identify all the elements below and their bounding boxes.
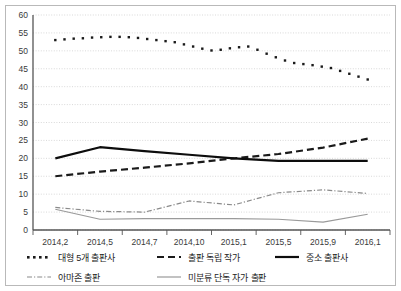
series-line-2 — [55, 147, 367, 161]
y-axis-tick-label: 60 — [19, 10, 29, 20]
dashed-line-icon — [156, 252, 182, 262]
y-axis-tick-label: 10 — [19, 189, 29, 199]
legend-item-indie-authors[interactable]: 출판 독립 작가 — [156, 247, 274, 267]
y-axis-tick-label: 40 — [19, 82, 29, 92]
data-dot — [284, 59, 286, 61]
series-line-3 — [55, 190, 367, 212]
data-dot — [357, 75, 359, 77]
data-dot — [54, 39, 56, 41]
x-axis-tick-label: 2016,1 — [355, 237, 381, 247]
data-dot — [293, 62, 295, 64]
legend-item-uncategorized-self-publishing[interactable]: 미분류 단독 자가 출판 — [156, 267, 346, 287]
data-dot — [238, 46, 240, 48]
y-axis-tick-label: 15 — [19, 171, 29, 181]
data-dot — [219, 49, 221, 51]
y-axis-tick-label: 35 — [19, 100, 29, 110]
series-0-dots — [54, 36, 369, 81]
data-dot — [164, 40, 166, 42]
data-dot — [100, 36, 102, 38]
data-dot — [247, 45, 249, 47]
legend-item-large-publishers[interactable]: 대형 5개 출판사 — [26, 247, 156, 267]
y-axis-tick-label: 50 — [19, 46, 29, 56]
data-dot — [72, 37, 74, 39]
data-dot — [63, 38, 65, 40]
legend-row-2: 아마존 출판 미분류 단독 자가 출판 — [12, 267, 389, 287]
data-dot — [321, 65, 323, 67]
data-dot — [174, 41, 176, 43]
data-dot — [302, 63, 304, 65]
legend-item-small-publishers[interactable]: 중소 출판사 — [274, 247, 384, 267]
thin-solid-line-icon — [156, 272, 182, 282]
y-axis-tick-label: 25 — [19, 135, 29, 145]
data-dot — [155, 39, 157, 41]
chart-legend: 대형 5개 출판사 출판 독립 작가 중소 출판사 아마존 출판 미분류 단독 … — [12, 247, 389, 287]
data-dot — [82, 37, 84, 39]
legend-label: 아마존 출판 — [58, 271, 100, 284]
x-axis-tick-label: 2015,9 — [310, 237, 336, 247]
y-axis-tick-label: 20 — [19, 153, 29, 163]
chart-container: 0510152025303540455055602014,22014,52014… — [0, 0, 401, 291]
data-dot — [128, 36, 130, 38]
y-axis-tick-label: 5 — [23, 207, 28, 217]
y-axis-tick-label: 30 — [19, 118, 29, 128]
dash-dot-line-icon — [26, 272, 52, 282]
x-axis-tick-label: 2015,5 — [265, 237, 291, 247]
data-dot — [183, 43, 185, 45]
data-dot — [339, 70, 341, 72]
data-dot — [118, 36, 120, 38]
dotted-line-icon — [26, 252, 52, 262]
data-dot — [311, 64, 313, 66]
data-dot — [192, 45, 194, 47]
data-dot — [146, 38, 148, 40]
legend-label: 대형 5개 출판사 — [58, 251, 115, 264]
x-axis-tick-label: 2014,5 — [87, 237, 113, 247]
data-dot — [229, 47, 231, 49]
y-axis-tick-label: 45 — [19, 64, 29, 74]
x-axis-tick-label: 2014,2 — [42, 237, 68, 247]
data-dot — [109, 36, 111, 38]
data-dot — [256, 49, 258, 51]
y-axis-tick-label: 55 — [19, 28, 29, 38]
series-line-4 — [55, 209, 367, 222]
legend-label: 미분류 단독 자가 출판 — [188, 271, 266, 284]
x-axis-tick-label: 2014,7 — [132, 237, 158, 247]
data-dot — [366, 78, 368, 80]
x-axis-tick-label: 2014,10 — [174, 237, 205, 247]
data-dot — [210, 49, 212, 51]
solid-line-icon — [274, 252, 300, 262]
data-dot — [201, 47, 203, 49]
legend-row-1: 대형 5개 출판사 출판 독립 작가 중소 출판사 — [12, 247, 389, 267]
data-dot — [265, 53, 267, 55]
legend-label: 출판 독립 작가 — [188, 251, 240, 264]
data-dot — [348, 73, 350, 75]
data-dot — [137, 37, 139, 39]
data-dot — [330, 67, 332, 69]
data-dot — [275, 56, 277, 58]
y-axis-tick-label: 0 — [23, 225, 28, 235]
x-axis-tick-label: 2015,1 — [221, 237, 247, 247]
legend-label: 중소 출판사 — [306, 251, 348, 264]
data-dot — [91, 36, 93, 38]
legend-item-amazon-publishing[interactable]: 아마존 출판 — [26, 267, 156, 287]
